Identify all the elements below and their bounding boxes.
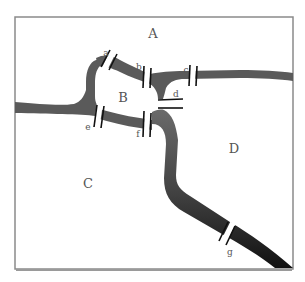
bridge-label-e: e [85, 122, 90, 132]
region-label-a: A [147, 26, 158, 41]
region-label-d: D [229, 141, 239, 156]
bridge-label-b: b [136, 62, 142, 72]
bridge-d [158, 99, 183, 100]
bridge-b [143, 66, 144, 88]
region-label-c: C [83, 176, 93, 191]
bridge-label-d: d [173, 89, 179, 99]
bridge-label-c: c [183, 65, 188, 75]
bridge-f [143, 111, 144, 137]
bridge-label-a: a [103, 48, 109, 58]
konigsberg-diagram: A B C D a b c d e f g [0, 0, 305, 282]
bridge-label-g: g [227, 247, 233, 257]
region-label-b: B [118, 90, 128, 105]
bridge-c [189, 65, 190, 86]
map-frame [15, 17, 293, 270]
